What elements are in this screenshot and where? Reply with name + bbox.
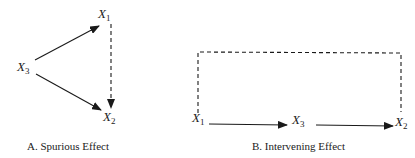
panel-b-caption: B. Intervening Effect <box>252 140 345 152</box>
panel-a-node-x2: X2 <box>102 109 115 126</box>
panel-b-arrow-x1-to-x3 <box>209 124 287 125</box>
panel-a-node-x1: X1 <box>97 6 110 23</box>
panel-a-spurious-effect: X1 X3 X2 A. Spurious Effect <box>16 6 115 152</box>
panel-b-dashed-path-x1-to-x2 <box>198 52 401 113</box>
panel-b-node-x2: X2 <box>394 114 407 131</box>
panel-b-arrow-x3-to-x2 <box>316 125 393 126</box>
panel-b-node-x3: X3 <box>291 112 305 129</box>
panel-a-arrow-x3-to-x1 <box>35 26 99 60</box>
panel-a-arrow-x3-to-x2 <box>36 74 101 110</box>
panel-b-intervening-effect: X1 X3 X2 B. Intervening Effect <box>191 52 407 152</box>
panel-a-caption: A. Spurious Effect <box>27 140 109 152</box>
causal-diagrams: X1 X3 X2 A. Spurious Effect X1 X3 X2 B. … <box>0 0 415 158</box>
panel-a-node-x3: X3 <box>16 59 30 76</box>
